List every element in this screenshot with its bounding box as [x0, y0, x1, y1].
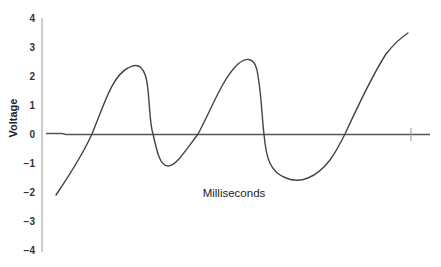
- y-tick-label: 2: [29, 71, 35, 82]
- y-tick-label: 1: [29, 100, 35, 111]
- y-tick-label: −1: [24, 158, 36, 169]
- y-tick-label: −3: [24, 216, 36, 227]
- x-axis-title: Milliseconds: [203, 187, 266, 199]
- voltage-chart: 4 3 2 1 0 −1 −2 −3 −4 Voltage Millisecon…: [0, 0, 441, 267]
- y-tick-label: 0: [29, 129, 35, 140]
- y-tick-label: −4: [24, 245, 36, 256]
- y-tick-label: 4: [29, 13, 35, 24]
- voltage-waveform: [56, 33, 408, 195]
- y-axis-title: Voltage: [7, 99, 19, 138]
- zero-baseline: [46, 134, 430, 135]
- y-tick-label: −2: [24, 187, 36, 198]
- y-tick-label: 3: [29, 42, 35, 53]
- y-tick-labels: 4 3 2 1 0 −1 −2 −3 −4: [24, 13, 36, 256]
